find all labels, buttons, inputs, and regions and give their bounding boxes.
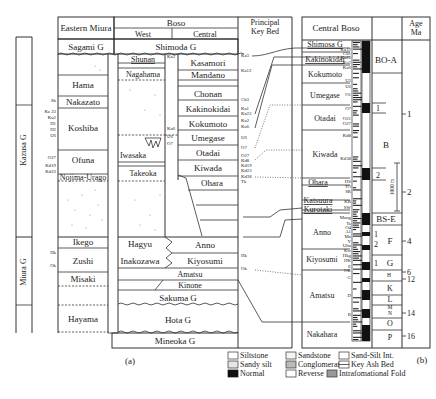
reverse-swatch-icon xyxy=(286,370,296,377)
age-tick-14: 14 xyxy=(407,309,415,318)
zone-f: F xyxy=(387,236,392,246)
b-unit-ohara: Ohara xyxy=(308,178,328,187)
lithology-band xyxy=(353,42,360,43)
em-unit-ikego: Ikego xyxy=(73,237,94,247)
miura-group-label: Miura G xyxy=(19,258,28,286)
lithology-band xyxy=(353,249,358,250)
lithology-band xyxy=(353,255,362,256)
lithology-band xyxy=(353,242,359,243)
subzone-1a: 1 xyxy=(376,104,380,113)
b-keybeds: Ka12Ch1Ka23Ku2Ku6U3U6O1O7O21O27Kd8Kd38HS… xyxy=(340,47,352,317)
fold-swatch-icon xyxy=(327,370,337,377)
legend: Siltstone Sandstone Sand-Silt Int. Sandy… xyxy=(228,351,405,378)
age-tick-16: 16 xyxy=(407,332,415,341)
legend-sandstone: Sandstone xyxy=(298,351,331,360)
age-tick-12: 12 xyxy=(407,275,415,284)
lithology-band xyxy=(353,123,359,124)
legend-sandy-silt: Sandy silt xyxy=(240,360,273,369)
normal-polarity-band xyxy=(362,232,370,236)
shimoda-group: Shimoda G xyxy=(156,42,197,52)
stratigraphy-diagram: Eastern Miura Boso West Central Principa… xyxy=(0,0,436,399)
age-tick-4: 4 xyxy=(407,236,412,246)
lithology-band xyxy=(353,167,359,168)
west-keybed-ku6: Ku6 xyxy=(167,126,176,131)
b-keybed-label: O1 xyxy=(345,92,351,97)
b-unit-kakinokidai: Kakinokidai xyxy=(305,55,345,64)
legend-reverse: Reverse xyxy=(298,369,324,378)
central-unit-amatsu: Amatsu xyxy=(178,270,203,279)
pkb-u6: U6 xyxy=(241,135,247,140)
pkb-o7: O7 xyxy=(241,145,247,150)
lithology-band xyxy=(353,106,361,107)
em-unit-hama: Hama xyxy=(72,80,94,90)
lithology-band xyxy=(353,60,360,61)
b-keybed-label: G xyxy=(348,275,352,280)
b-unit-anno: Anno xyxy=(313,228,331,237)
normal-polarity-band xyxy=(362,309,370,318)
central-header: Central xyxy=(193,30,217,39)
scale-bar-label: 1000 m xyxy=(389,178,395,195)
em-unit-zushi: Zushi xyxy=(73,256,94,266)
lithology-band xyxy=(353,288,357,289)
central-unit-kiwada: Kiwada xyxy=(194,163,222,173)
pkb-ku2: Ku2 xyxy=(241,118,250,123)
zone-l: L xyxy=(388,295,393,304)
lithology-band xyxy=(353,227,359,228)
lithology-band xyxy=(353,337,362,338)
lithology-band xyxy=(353,198,362,199)
boso-header: Boso xyxy=(167,18,186,28)
principal-header-2: Key Bed xyxy=(251,27,279,36)
em-unit-nojima-urago: Nojima-Urago xyxy=(60,173,107,182)
lithology-band xyxy=(353,187,356,188)
lithology-band xyxy=(353,282,363,283)
em-keybed-kd19: Kd19 xyxy=(45,163,56,168)
b-unit-kokumoto: Kokumoto xyxy=(308,70,342,79)
central-unit-kiyosumi: Kiyosumi xyxy=(187,256,223,266)
lithology-band xyxy=(353,172,357,173)
lithology-band xyxy=(353,161,361,162)
b-keybed-label: KR xyxy=(344,199,351,204)
b-keybed-label: Ku6 xyxy=(343,65,352,70)
central-unit-umegase: Umegase xyxy=(191,133,225,143)
lithology-band xyxy=(353,218,362,219)
lithology-band xyxy=(353,225,359,226)
lithology-band xyxy=(353,269,363,270)
principal-header-1: Principal xyxy=(251,18,281,27)
b-keybed-label: Kd8 xyxy=(343,133,352,138)
shared-unit-hota: Hota G xyxy=(165,315,192,325)
normal-polarity-band xyxy=(362,290,370,300)
lithology-band xyxy=(353,77,359,78)
em-keybed-ku2: Ku2 xyxy=(48,115,57,120)
lithology-band xyxy=(353,302,359,303)
zone-bo-a: BO-A xyxy=(375,55,397,65)
em-keybed-kd23: Kd23 xyxy=(45,169,56,174)
b-unit-amatsu: Amatsu xyxy=(310,291,335,300)
west-unit-inakozawa: Inakozawa xyxy=(121,256,160,266)
lithology-band xyxy=(353,244,362,245)
pkb-ok: Ok xyxy=(241,266,247,271)
sagami-group: Sagami G xyxy=(68,42,104,52)
b-unit-umegase: Umegase xyxy=(310,91,340,100)
normal-polarity-band xyxy=(362,245,370,250)
lithology-band xyxy=(353,220,357,221)
zone-g: G xyxy=(387,258,394,268)
lithology-band xyxy=(353,112,357,113)
pkb-ku6: Ku6 xyxy=(241,124,250,129)
em-unit-nakazato: Nakazato xyxy=(66,97,100,107)
lithology-band xyxy=(353,247,357,248)
b-keybed-label: HK xyxy=(344,258,351,263)
lithology-band xyxy=(353,90,358,91)
normal-polarity-band xyxy=(362,213,370,225)
age-tick-1: 1 xyxy=(407,109,412,119)
west-unit-iwasaka: Iwasaka xyxy=(120,151,147,160)
normal-polarity-band xyxy=(362,41,370,73)
central-unit-kakinokidai: Kakinokidai xyxy=(186,104,231,114)
legend-sand-silt: Sand-Silt Int. xyxy=(351,351,394,360)
legend-siltstone: Siltstone xyxy=(240,351,268,360)
lithology-band xyxy=(353,214,356,215)
central-unit-mandano: Mandano xyxy=(191,70,225,80)
panel-b-header: Central Boso xyxy=(312,23,360,33)
lithology-band xyxy=(353,319,358,320)
lithology-band xyxy=(353,176,362,177)
b-keybed-label: U3 xyxy=(345,78,351,83)
